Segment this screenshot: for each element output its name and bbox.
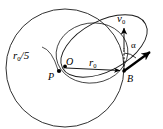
orbital-diagram: r0/5 O P B r0 v0 α: [0, 0, 163, 129]
diagram-canvas: [0, 0, 163, 129]
label-r0-over-5: r0/5: [13, 50, 29, 61]
r0-over-5-leader-line: [42, 47, 58, 70]
transfer-ellipse-orbit-curve: [52, 18, 132, 87]
label-point-B: B: [127, 74, 133, 84]
point-P-marker: [57, 69, 61, 73]
label-point-O: O: [66, 57, 73, 67]
label-r0-radius: r0: [89, 57, 97, 68]
label-alpha-angle: α: [131, 41, 136, 50]
point-B-marker: [122, 69, 126, 73]
target-ellipse-orbit-curve: [51, 2, 157, 90]
label-point-P: P: [48, 72, 54, 82]
label-v0-velocity: v0: [117, 13, 125, 24]
